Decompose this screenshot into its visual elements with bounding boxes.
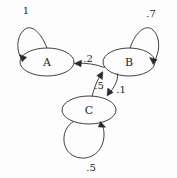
transition-label-a-self: 1 [23, 5, 29, 16]
edge-path-b-self [130, 28, 159, 62]
arrow-head-c-to-b [97, 72, 103, 80]
transition-label-b-to-c: .1 [116, 84, 126, 95]
transition-label-b-self: .7 [146, 8, 156, 19]
state-label-b: B [125, 56, 133, 69]
state-node-a[interactable]: A [20, 48, 74, 76]
state-label-a: A [42, 56, 52, 69]
edge-path-c-self [64, 122, 104, 159]
arrow-head-b-to-a [74, 60, 81, 67]
transition-label-b-to-a: .2 [83, 53, 93, 64]
transition-label-c-to-b: .5 [94, 80, 104, 91]
state-node-c[interactable]: C [62, 96, 116, 124]
transition-label-c-self: .5 [86, 162, 96, 173]
markov-chain-diagram: A B C 1 .7 .2 .5 .1 .5 [0, 0, 177, 178]
state-diagram-canvas: A B C 1 .7 .2 .5 .1 .5 [0, 0, 177, 178]
state-node-b[interactable]: B [103, 48, 155, 76]
state-label-c: C [85, 104, 93, 117]
transition-c-self [64, 121, 106, 158]
